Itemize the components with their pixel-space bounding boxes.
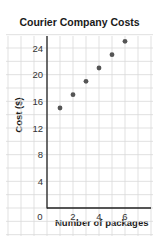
y-tick-label: 4 — [38, 176, 43, 187]
origin-label: 0 — [37, 211, 42, 222]
data-point — [123, 39, 128, 44]
x-tick-label: 6 — [122, 211, 127, 222]
data-point — [84, 79, 89, 84]
data-point — [58, 106, 63, 111]
x-tick-label: 4 — [96, 211, 101, 222]
plot-area: 48121620240246 — [0, 0, 159, 238]
y-tick-label: 12 — [32, 123, 43, 134]
scatter-chart: Courier Company Costs Cost ($) Number of… — [0, 0, 159, 238]
y-tick-label: 8 — [38, 149, 43, 160]
x-tick-label: 2 — [70, 211, 75, 222]
data-point — [97, 66, 102, 71]
y-tick-label: 20 — [32, 69, 43, 80]
y-tick-label: 24 — [32, 43, 43, 54]
y-tick-label: 16 — [32, 96, 43, 107]
data-point — [71, 92, 76, 97]
data-point — [110, 52, 115, 57]
